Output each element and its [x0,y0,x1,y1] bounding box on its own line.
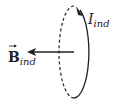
loop-front-solid [74,10,89,98]
current-direction-arrow-icon [76,6,83,16]
diagram-canvas: Iind Bind [0,0,115,108]
vector-arrow-head-icon [14,45,17,48]
current-label: Iind [87,11,110,29]
